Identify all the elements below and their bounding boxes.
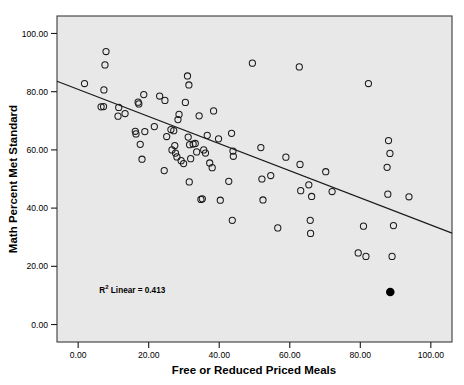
y-axis-title: Math Percent Met Standard bbox=[7, 105, 19, 253]
x-axis-title: Free or Reduced Priced Meals bbox=[172, 364, 336, 376]
x-tick-label: 20.00 bbox=[138, 350, 160, 360]
chart-canvas: 0.0020.0040.0060.0080.00100.00 0.0020.00… bbox=[0, 0, 464, 385]
y-tick-label: 0.00 bbox=[31, 320, 48, 330]
scatter-plot-figure: 0.0020.0040.0060.0080.00100.00 0.0020.00… bbox=[0, 0, 464, 385]
x-tick-label: 40.00 bbox=[208, 350, 230, 360]
y-tick-label: 40.00 bbox=[26, 203, 48, 213]
highlighted-data-point bbox=[386, 288, 395, 297]
x-tick-label: 80.00 bbox=[350, 350, 372, 360]
x-tick-label: 60.00 bbox=[279, 350, 301, 360]
y-tick-label: 80.00 bbox=[26, 87, 48, 97]
y-tick-label: 100.00 bbox=[22, 29, 49, 39]
x-tick-label: 0.00 bbox=[70, 350, 87, 360]
y-tick-label: 20.00 bbox=[26, 261, 48, 271]
r-squared-annotation: R2 Linear = 0.413 bbox=[99, 284, 165, 294]
x-tick-label: 100.00 bbox=[418, 350, 445, 360]
y-tick-label: 60.00 bbox=[26, 145, 48, 155]
